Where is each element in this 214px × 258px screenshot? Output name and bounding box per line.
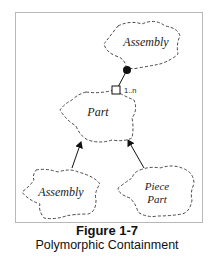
part-label: Part [86, 105, 109, 119]
inheritance-arrow-piece-part [128, 140, 144, 168]
piece-part-label-line1: Piece [144, 180, 170, 192]
assembly-bottom-label: Assembly [37, 185, 84, 199]
cloud-assembly-top: Assembly [104, 21, 180, 68]
cloud-piece-part: Piece Part [118, 166, 194, 217]
figure-title: Figure 1-7 [0, 223, 214, 238]
figure-subtitle: Polymorphic Containment [0, 238, 214, 252]
cloud-assembly-bottom: Assembly [22, 169, 100, 218]
inheritance-arrow-assembly [72, 142, 81, 168]
class-diagram: Assembly Part Assembly Piece Part 1..n [0, 0, 214, 258]
assembly-top-label: Assembly [122, 35, 169, 49]
cloud-part: Part [60, 90, 136, 142]
has-relationship: 1..n [112, 66, 137, 95]
container-square-icon [112, 86, 120, 94]
multiplicity-label: 1..n [124, 86, 137, 95]
by-value-dot-icon [123, 66, 131, 74]
piece-part-label-line2: Part [146, 193, 168, 205]
